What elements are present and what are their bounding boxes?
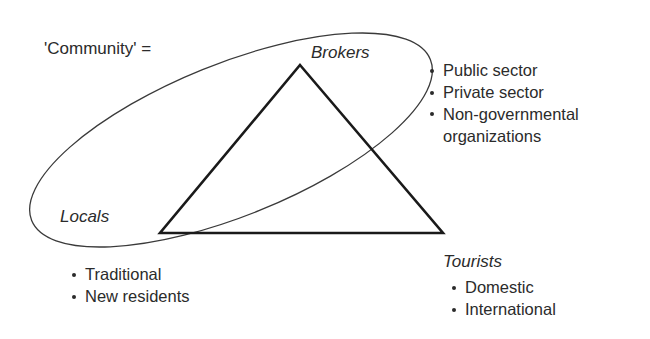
brokers-label: Brokers <box>311 44 370 61</box>
list-item-label: Domestic <box>465 278 534 296</box>
diagram-canvas: 'Community' = Brokers Locals Tourists Pu… <box>0 0 650 339</box>
bullet-dot-icon <box>430 91 434 95</box>
list-item: New residents <box>72 286 190 308</box>
list-item-label: International <box>465 300 556 318</box>
list-item-label: Traditional <box>85 265 161 283</box>
triangle-outline <box>160 65 443 233</box>
bullet-dot-icon <box>452 308 456 312</box>
list-item-label: Public sector <box>443 61 537 79</box>
list-item: Public sector <box>430 60 579 82</box>
bullet-dot-icon <box>452 286 456 290</box>
bullet-dot-icon <box>430 112 434 116</box>
list-item-label: New residents <box>85 287 190 305</box>
list-item-label-continuation: organizations <box>443 126 579 148</box>
list-item: Private sector <box>430 82 579 104</box>
tourists-item-list: Domestic International <box>452 277 556 321</box>
list-item: Domestic <box>452 277 556 299</box>
brokers-item-list: Public sector Private sector Non-governm… <box>430 60 579 148</box>
bullet-dot-icon <box>72 295 76 299</box>
list-item: International <box>452 299 556 321</box>
list-item-label: Non-governmental <box>443 105 579 123</box>
list-item: Non-governmental organizations <box>430 104 579 148</box>
bullet-dot-icon <box>430 69 434 73</box>
list-item: Traditional <box>72 264 190 286</box>
tourists-label: Tourists <box>443 253 502 270</box>
locals-label: Locals <box>60 208 109 225</box>
bullet-dot-icon <box>72 273 76 277</box>
community-label: 'Community' = <box>44 40 151 57</box>
list-item-label: Private sector <box>443 83 544 101</box>
locals-item-list: Traditional New residents <box>72 264 190 308</box>
